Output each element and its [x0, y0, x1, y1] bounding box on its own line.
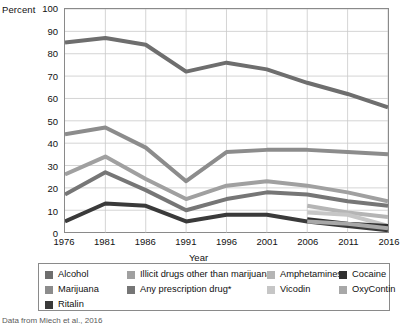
x-tick-label: 2001: [247, 236, 287, 247]
x-axis-title: Year: [0, 252, 397, 263]
x-tick-label: 1976: [44, 236, 84, 247]
y-tick-label: 50: [16, 115, 58, 126]
legend-item[interactable]: Ritalin: [45, 298, 99, 312]
legend-item[interactable]: Illicit drugs other than marijuana: [127, 268, 272, 282]
x-tick-label: 1996: [207, 236, 247, 247]
legend-swatch: [45, 271, 53, 279]
legend-swatch: [267, 286, 275, 294]
legend-label: Vicodin: [280, 285, 310, 294]
legend-item[interactable]: Vicodin: [267, 283, 342, 297]
legend-label: Any prescription drug*: [140, 285, 231, 294]
legend-item[interactable]: Alcohol: [45, 268, 99, 282]
x-tick-label: 1986: [125, 236, 165, 247]
y-tick-label: 100: [16, 3, 58, 14]
y-tick-label: 60: [16, 93, 58, 104]
legend-column: Illicit drugs other than marijuanaAny pr…: [127, 268, 272, 298]
series-line: [65, 128, 388, 182]
y-tick-label: 40: [16, 138, 58, 149]
y-tick-label: 90: [16, 25, 58, 36]
legend-item[interactable]: OxyContin: [339, 283, 395, 297]
series-line: [65, 157, 388, 202]
legend-item[interactable]: Cocaine: [339, 268, 395, 282]
legend-column: CocaineOxyContin: [339, 268, 395, 298]
legend-column: AmphetaminesVicodin: [267, 268, 342, 298]
legend-label: Illicit drugs other than marijuana: [140, 270, 272, 279]
series-layer: [65, 9, 388, 233]
y-tick-label: 10: [16, 205, 58, 216]
legend-swatch: [267, 271, 275, 279]
source-note: Data from Miech et al., 2016: [2, 316, 103, 325]
legend-label: Ritalin: [58, 300, 84, 309]
x-tick-label: 1991: [166, 236, 206, 247]
series-line: [65, 204, 388, 231]
chart-legend: AlcoholMarijuanaRitalinIllicit drugs oth…: [38, 263, 390, 311]
legend-label: Amphetamines: [280, 270, 342, 279]
y-tick-label: 20: [16, 183, 58, 194]
legend-label: OxyContin: [352, 285, 395, 294]
legend-swatch: [339, 286, 347, 294]
legend-swatch: [45, 301, 53, 309]
y-tick-label: 30: [16, 160, 58, 171]
legend-swatch: [127, 271, 135, 279]
plot-area: [64, 8, 389, 233]
legend-swatch: [339, 271, 347, 279]
legend-label: Marijuana: [58, 285, 99, 294]
legend-item[interactable]: Amphetamines: [267, 268, 342, 282]
x-tick-label: 2016: [369, 236, 404, 247]
x-tick-label: 1981: [85, 236, 125, 247]
x-tick-label: 2006: [288, 236, 328, 247]
legend-label: Cocaine: [352, 270, 386, 279]
series-line: [65, 38, 388, 107]
legend-label: Alcohol: [58, 270, 89, 279]
legend-swatch: [127, 286, 135, 294]
x-tick-label: 2011: [328, 236, 368, 247]
legend-item[interactable]: Any prescription drug*: [127, 283, 272, 297]
legend-swatch: [45, 286, 53, 294]
y-tick-label: 80: [16, 48, 58, 59]
y-tick-label: 70: [16, 70, 58, 81]
legend-column: AlcoholMarijuanaRitalin: [45, 268, 99, 313]
legend-item[interactable]: Marijuana: [45, 283, 99, 297]
